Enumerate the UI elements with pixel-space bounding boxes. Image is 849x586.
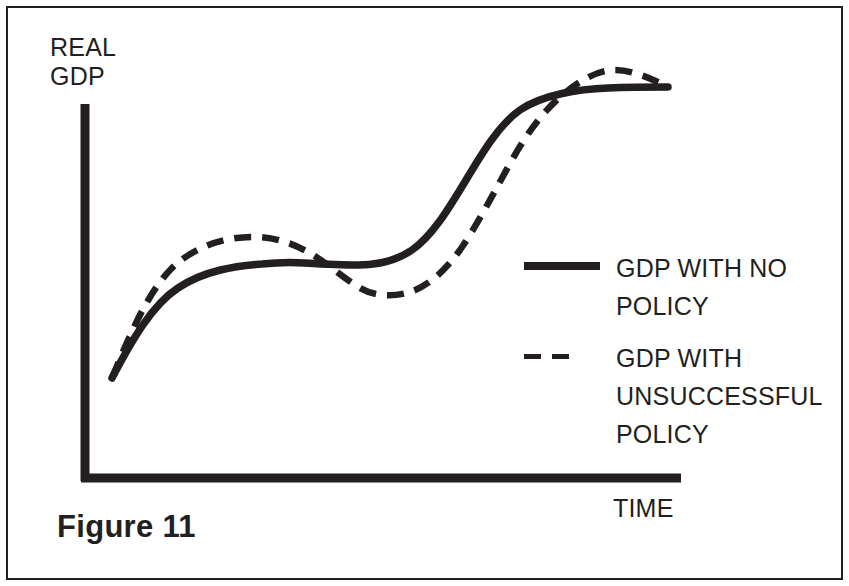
x-axis-label: TIME [613,494,674,523]
legend-entry-gdp-unsuccessful-policy: GDP WITH UNSUCCESSFUL POLICY [524,339,834,453]
legend-swatch-dashed-icon [524,354,600,359]
legend-label-gdp-unsuccessful-policy: GDP WITH UNSUCCESSFUL POLICY [616,339,834,453]
legend-entry-gdp-no-policy: GDP WITH NO POLICY [524,249,834,325]
figure-container: REAL GDP TIME GDP WITH NO POLICY GDP WIT… [0,0,849,586]
chart-legend: GDP WITH NO POLICY GDP WITH UNSUCCESSFUL… [524,249,834,467]
legend-label-gdp-no-policy: GDP WITH NO POLICY [616,249,834,325]
y-axis-label: REAL GDP [50,33,116,91]
legend-swatch-solid-icon [524,262,600,270]
figure-caption: Figure 11 [57,509,196,545]
